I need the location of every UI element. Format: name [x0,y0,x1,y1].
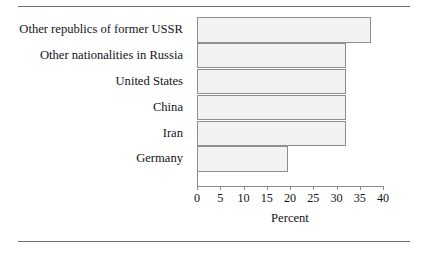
bar-row [197,95,383,121]
x-tick [220,186,221,190]
x-tick [360,186,361,190]
bar [197,43,346,69]
bar-row [197,69,383,95]
bar-row [197,43,383,69]
x-tick-label: 40 [368,191,398,206]
x-tick [244,186,245,190]
category-label: United States [0,69,190,95]
figure-container: Other republics of former USSROther nati… [0,0,427,253]
category-label: China [0,95,190,121]
x-tick [383,186,384,190]
category-label: Iran [0,121,190,147]
x-tick [313,186,314,190]
bar [197,17,371,43]
y-axis-line [197,172,198,186]
bar [197,69,346,95]
category-axis-labels: Other republics of former USSROther nati… [0,17,190,172]
bar-chart-plot: Other republics of former USSROther nati… [0,0,427,253]
bar [197,146,288,172]
bar-row [197,17,383,43]
bar [197,121,346,147]
bars-area [197,17,383,172]
category-label: Other nationalities in Russia [0,43,190,69]
bar-row [197,121,383,147]
x-tick [197,186,198,190]
x-tick [290,186,291,190]
bar [197,95,346,121]
x-axis-title: Percent [197,211,383,226]
bar-row [197,146,383,172]
x-tick [267,186,268,190]
category-label: Germany [0,146,190,172]
category-label: Other republics of former USSR [0,17,190,43]
x-tick [337,186,338,190]
